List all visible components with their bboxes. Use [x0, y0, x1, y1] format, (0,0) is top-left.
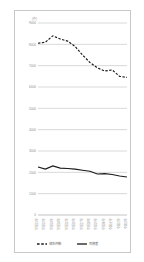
x-axis-tick-label: 平成30年: [101, 218, 106, 230]
y-axis-tick-label: 4000: [29, 128, 36, 132]
series-line-2: [38, 166, 127, 177]
x-axis-tick-labels: 平成21年平成22年平成23年平成24年平成25年平成26年平成27年平成28年…: [34, 218, 128, 230]
x-axis-tick-label: 平成21年: [34, 218, 39, 230]
x-axis-tick-label: 平成26年: [71, 218, 76, 230]
y-axis-tick-label: 2000: [29, 171, 36, 175]
x-axis-tick-label: 平成23年: [49, 218, 54, 230]
series-line-1: [38, 36, 127, 78]
y-axis-tick-label: 8000: [29, 43, 36, 47]
x-axis-tick-label: 令和2年: [116, 218, 121, 229]
y-axis-tick-label: 1000: [29, 192, 36, 196]
line-chart: 9000800070006000500040003000200010000 (件…: [15, 11, 130, 252]
x-axis-tick-label: 令和元年: [108, 218, 113, 230]
chart-card: 9000800070006000500040003000200010000 (件…: [14, 10, 131, 253]
x-axis-tick-label: 令和3年: [123, 218, 128, 229]
legend-label-1: 発生件数: [49, 241, 62, 246]
x-axis-tick-label: 平成28年: [86, 218, 91, 230]
x-axis-tick-label: 平成24年: [56, 218, 61, 230]
gridlines-group: [38, 23, 127, 215]
y-axis-tick-label: 9000: [29, 21, 36, 25]
x-axis-tick-label: 平成25年: [64, 218, 69, 230]
y-axis-tick-labels: 9000800070006000500040003000200010000: [29, 21, 36, 217]
y-axis-tick-label: 0: [34, 213, 36, 217]
y-axis-tick-label: 5000: [29, 107, 36, 111]
y-axis-unit-label: (件): [32, 16, 37, 21]
y-axis-tick-label: 6000: [29, 85, 36, 89]
x-axis-tick-label: 平成29年: [93, 218, 98, 230]
y-axis-tick-label: 7000: [29, 64, 36, 68]
legend-label-2: 死傷者: [89, 241, 99, 246]
chart-legend: 発生件数死傷者: [37, 241, 99, 246]
y-axis-tick-label: 3000: [29, 149, 36, 153]
data-series-group: [38, 36, 127, 177]
chart-plot-area: 9000800070006000500040003000200010000 (件…: [15, 11, 130, 252]
x-axis-tick-label: 平成22年: [41, 218, 46, 230]
x-axis-tick-label: 平成27年: [79, 218, 84, 230]
